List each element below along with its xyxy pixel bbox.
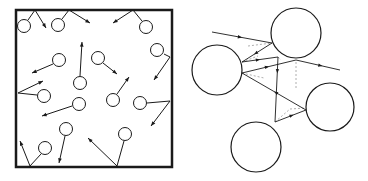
arrowhead-icon bbox=[38, 81, 43, 85]
arrowhead-icon bbox=[113, 19, 118, 23]
gas-container-diagram bbox=[0, 0, 184, 181]
trajectory-line bbox=[88, 138, 124, 166]
molecule-circle bbox=[38, 90, 51, 103]
molecule-circle bbox=[73, 98, 86, 111]
molecule bbox=[107, 77, 130, 107]
molecule bbox=[74, 42, 87, 90]
molecule-circle bbox=[18, 20, 31, 33]
molecule-circle bbox=[74, 77, 87, 90]
arrowhead-icon bbox=[289, 115, 293, 118]
molecule-scattering-diagram bbox=[184, 0, 368, 181]
molecule bbox=[18, 81, 51, 103]
trajectory-line bbox=[20, 141, 41, 166]
molecule-circle bbox=[60, 123, 73, 136]
molecule bbox=[18, 10, 47, 33]
molecule-circle bbox=[52, 19, 65, 32]
top-molecule bbox=[271, 8, 321, 58]
path-segment bbox=[296, 60, 340, 70]
arrowhead-icon bbox=[32, 69, 37, 73]
path-segment bbox=[275, 110, 306, 122]
arrowhead-icon bbox=[276, 69, 279, 73]
molecule bbox=[20, 141, 52, 166]
trajectory-line bbox=[42, 106, 72, 116]
molecule-circle bbox=[39, 142, 52, 155]
molecule-circle bbox=[92, 52, 105, 65]
molecule bbox=[52, 10, 91, 32]
path-segment bbox=[242, 60, 296, 73]
path-segment bbox=[242, 57, 278, 62]
molecule-scattering-panel bbox=[184, 0, 368, 181]
arrowhead-icon bbox=[85, 19, 90, 23]
trajectory-line bbox=[113, 10, 142, 23]
left-molecule bbox=[192, 45, 242, 95]
molecule-circle bbox=[151, 44, 164, 57]
dashed-normal-line bbox=[278, 57, 281, 60]
path-segment bbox=[275, 57, 279, 122]
molecule-circle bbox=[107, 94, 120, 107]
molecule bbox=[32, 54, 66, 74]
arrowhead-icon bbox=[80, 42, 84, 47]
trajectory-line bbox=[296, 60, 340, 70]
right-molecule bbox=[306, 83, 354, 131]
molecule bbox=[151, 44, 171, 81]
path-segment bbox=[212, 32, 272, 43]
arrowhead-icon bbox=[256, 58, 260, 61]
bottom-molecule bbox=[231, 122, 281, 172]
arrowhead-icon bbox=[42, 113, 47, 117]
molecule-circle bbox=[119, 128, 132, 141]
arrowhead-icon bbox=[125, 77, 129, 82]
trajectory-line bbox=[275, 57, 278, 122]
molecule bbox=[134, 97, 171, 127]
arrowhead-icon bbox=[154, 75, 158, 80]
dashed-normal-line bbox=[275, 109, 290, 122]
dashed-normal-line bbox=[242, 73, 264, 78]
molecule-circle bbox=[53, 54, 66, 67]
molecule bbox=[113, 10, 153, 34]
arrowhead-icon bbox=[20, 141, 23, 146]
gas-container-panel bbox=[0, 0, 184, 181]
arrowhead-icon bbox=[254, 51, 258, 55]
arrowhead-icon bbox=[238, 35, 242, 38]
arrowhead-icon bbox=[42, 23, 46, 28]
molecule bbox=[92, 52, 118, 75]
trajectory-line bbox=[80, 42, 82, 76]
molecule bbox=[88, 128, 132, 167]
molecule-circle bbox=[134, 97, 147, 110]
molecule bbox=[58, 123, 72, 164]
trajectory-line bbox=[147, 101, 170, 126]
molecule-circle bbox=[140, 21, 153, 34]
